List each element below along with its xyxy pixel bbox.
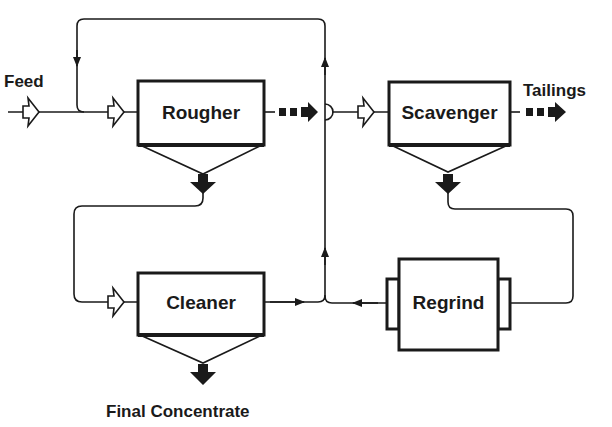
- rougher-tailings-arrow-icon: [301, 102, 318, 122]
- scavenger-label: Scavenger: [389, 102, 510, 124]
- tail-dash: [290, 108, 297, 116]
- tail-dash: [279, 108, 286, 116]
- cleaner-inlet-arrow-icon: [108, 288, 124, 316]
- cleaner-cell: [138, 273, 264, 363]
- rougher-inlet-arrow-icon: [108, 98, 124, 126]
- rougher-cell: [138, 81, 264, 174]
- cleaner-tail-line: [265, 295, 325, 302]
- regrind-label: Regrind: [399, 292, 498, 314]
- tailings-label: Tailings: [523, 81, 586, 101]
- tail-dash: [537, 108, 544, 116]
- recycle-line: [77, 19, 325, 300]
- tail-dash: [526, 108, 533, 116]
- feed-arrow-icon: [23, 98, 39, 126]
- cleaner-label: Cleaner: [138, 292, 264, 314]
- scavenger-cell: [389, 82, 510, 172]
- rougher-label: Rougher: [138, 102, 264, 124]
- tailings-arrow-icon: [548, 102, 566, 122]
- crossover-bump: [325, 104, 333, 120]
- final-conc-arrow-icon: [190, 364, 216, 385]
- regrind-out-line: [325, 296, 386, 303]
- final-concentrate-label: Final Concentrate: [106, 402, 250, 422]
- rougher-conc-arrow-icon: [190, 174, 216, 194]
- scavenger-conc-arrow-icon: [435, 174, 461, 194]
- scavenger-inlet-arrow-icon: [358, 98, 374, 126]
- feed-label: Feed: [4, 72, 44, 92]
- flowsheet-canvas: [0, 0, 612, 427]
